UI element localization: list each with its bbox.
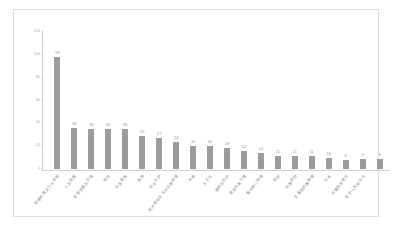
y-axis-tick-label: 20 (36, 144, 40, 148)
bar-item[interactable]: 9 (371, 32, 388, 169)
x-axis-label-slot: 医疗废物及污水处理管理 (168, 172, 185, 228)
x-axis-category-label: 职业防护 (149, 174, 163, 190)
chart-container: 020406080100120 983635353529272420201816… (13, 9, 379, 217)
bar-value-label: 24 (174, 137, 178, 141)
x-axis-tick-mark (345, 169, 346, 171)
bar-rect[interactable] (292, 156, 298, 169)
x-axis-category-label: 应急预案 (115, 174, 129, 190)
y-axis-tick-label: 60 (36, 99, 40, 103)
x-axis-tick-mark (328, 169, 329, 171)
x-axis-tick-mark (125, 169, 126, 171)
x-axis-label-slot: 应急预案 (117, 172, 134, 228)
x-axis-label-slot: 抗菌药物 (286, 172, 303, 228)
bar-value-label: 8 (345, 155, 347, 159)
x-axis-label-slot: 消毒 (185, 172, 202, 228)
bar-rect[interactable] (71, 128, 77, 169)
x-axis-tick-mark (193, 169, 194, 171)
x-axis-category-label: 监测 (137, 174, 145, 183)
bar-rect[interactable] (326, 158, 332, 169)
x-axis-category-label: 消毒 (188, 174, 196, 183)
x-axis-category-label: 抗菌药物 (285, 174, 299, 190)
bar-item[interactable]: 35 (100, 32, 117, 169)
bar-rect[interactable] (54, 57, 60, 169)
x-axis-category-label: 标本 (324, 174, 332, 183)
bar-item[interactable]: 16 (235, 32, 252, 169)
bar-value-label: 18 (225, 143, 229, 147)
x-axis-tick-mark (227, 169, 228, 171)
x-axis-label-slot: 手卫生 (202, 172, 219, 228)
x-axis-label-slot: 监测 (134, 172, 151, 228)
y-axis-tick-label: 100 (34, 53, 40, 57)
x-axis-label-slot: 人员配置 (66, 172, 83, 228)
y-axis-tick-label: 120 (34, 30, 40, 34)
x-axis-label-slot: 重点部门管理 (252, 172, 269, 228)
x-axis-tick-mark (57, 169, 58, 171)
bar-item[interactable]: 11 (286, 32, 303, 169)
bar-value-label: 20 (208, 141, 212, 145)
bar-rect[interactable] (241, 151, 247, 169)
bar-item[interactable]: 36 (66, 32, 83, 169)
x-axis-label-slot: 医护人员依从性 (354, 172, 371, 228)
bar-value-label: 10 (327, 153, 331, 157)
bar-rect[interactable] (224, 148, 230, 169)
bar-item[interactable]: 18 (219, 32, 236, 169)
x-axis-label-slot: 培训 (100, 172, 117, 228)
y-axis-tick-label: 0 (38, 167, 40, 171)
x-axis-tick-mark (91, 169, 92, 171)
bar-value-label: 35 (89, 124, 93, 128)
x-axis-label-slot: 多重耐药菌管理 (303, 172, 320, 228)
y-axis-tick-label: 40 (36, 122, 40, 126)
bar-rect[interactable] (207, 146, 213, 169)
bar-item[interactable]: 11 (269, 32, 286, 169)
bar-item[interactable]: 27 (151, 32, 168, 169)
x-axis-label-slot: 管理制度及工作流程 (49, 172, 66, 228)
bar-value-label: 11 (293, 151, 297, 155)
bar-item[interactable]: 20 (185, 32, 202, 169)
bar-item[interactable]: 98 (49, 32, 66, 169)
x-axis-label-slot: 隔离与防护 (219, 172, 236, 228)
x-axis-tick-mark (74, 169, 75, 171)
x-axis-tick-mark (142, 169, 143, 171)
bar-value-label: 29 (140, 131, 144, 135)
bar-item[interactable]: 20 (202, 32, 219, 169)
bar-item[interactable]: 14 (252, 32, 269, 169)
plot-area: 020406080100120 983635353529272420201816… (43, 32, 392, 169)
bar-item[interactable]: 8 (337, 32, 354, 169)
bar-item[interactable]: 35 (117, 32, 134, 169)
bar-item[interactable]: 29 (134, 32, 151, 169)
bar-rect[interactable] (377, 159, 383, 169)
bar-rect[interactable] (190, 146, 196, 169)
x-axis-tick-mark (260, 169, 261, 171)
x-axis-tick-mark (210, 169, 211, 171)
bar-value-label: 20 (191, 141, 195, 145)
bar-item[interactable]: 35 (83, 32, 100, 169)
bar-rect[interactable] (343, 160, 349, 169)
bar-rect[interactable] (258, 153, 264, 169)
x-axis-tick-mark (159, 169, 160, 171)
bar-item[interactable]: 9 (354, 32, 371, 169)
bar-rect[interactable] (88, 129, 94, 169)
bar-rect[interactable] (156, 138, 162, 169)
bar-rect[interactable] (275, 156, 281, 169)
bar-rect[interactable] (309, 156, 315, 169)
x-axis-label-slot (371, 172, 388, 228)
bar-rect[interactable] (360, 159, 366, 169)
bar-item[interactable]: 24 (168, 32, 185, 169)
x-axis-tick-mark (311, 169, 312, 171)
bar-item[interactable]: 10 (320, 32, 337, 169)
bar-value-label: 36 (72, 123, 76, 127)
bar-rect[interactable] (122, 129, 128, 169)
x-axis-category-label: 手卫生 (202, 174, 213, 186)
bar-value-label: 27 (157, 133, 161, 137)
bar-rect[interactable] (105, 129, 111, 169)
x-axis-tick-mark (243, 169, 244, 171)
x-axis-tick-mark (362, 169, 363, 171)
bar-value-label: 9 (362, 154, 364, 158)
x-axis-tick-mark (108, 169, 109, 171)
bar-rect[interactable] (139, 136, 145, 169)
bar-rect[interactable] (173, 142, 179, 169)
x-axis-category-label: 质控 (273, 174, 281, 183)
bar-value-label: 16 (242, 146, 246, 150)
bar-item[interactable]: 11 (303, 32, 320, 169)
bar-value-label: 35 (106, 124, 110, 128)
